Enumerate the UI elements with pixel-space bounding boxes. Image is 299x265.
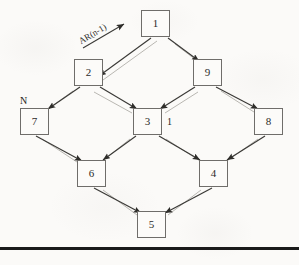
- node-1-label: 1: [153, 18, 159, 29]
- node-5[interactable]: 5: [137, 211, 166, 238]
- node-4-label: 4: [211, 168, 217, 179]
- figure-canvas: 1 2 9 7 3 8 6 4 5 AR(n-1) N 1: [0, 0, 299, 265]
- node-8[interactable]: 8: [254, 108, 283, 135]
- edge-8-to-4: [227, 136, 265, 160]
- edge-9-to-3: [160, 87, 195, 109]
- node-9-label: 9: [205, 67, 211, 78]
- node-2[interactable]: 2: [74, 59, 103, 86]
- edge-9-to-8: [216, 87, 258, 109]
- node-2-label: 2: [86, 67, 92, 78]
- edge-1-to-9: [168, 38, 199, 61]
- node-4[interactable]: 4: [199, 160, 228, 187]
- horizontal-rule: [0, 247, 299, 250]
- node-6[interactable]: 6: [77, 160, 106, 187]
- edge-6-to-5: [94, 188, 141, 213]
- node-7[interactable]: 7: [20, 108, 49, 135]
- edge-7-to-6: [36, 136, 82, 161]
- edge-1-to-2: [99, 38, 151, 76]
- node-three-marker-label: 1: [167, 117, 172, 127]
- node-5-label: 5: [149, 219, 155, 230]
- node-1[interactable]: 1: [141, 10, 170, 37]
- node-8-label: 8: [266, 116, 272, 127]
- node-9[interactable]: 9: [193, 59, 222, 86]
- node-n-marker-label: N: [20, 96, 27, 106]
- edge-2-to-7: [48, 87, 80, 109]
- node-3[interactable]: 3: [133, 108, 162, 135]
- edge-4-to-5: [165, 188, 212, 213]
- node-7-label: 7: [32, 116, 38, 127]
- node-6-label: 6: [89, 168, 95, 179]
- edge-3-to-4: [159, 136, 200, 160]
- edge-3-to-6: [103, 136, 136, 160]
- node-3-label: 3: [145, 116, 151, 127]
